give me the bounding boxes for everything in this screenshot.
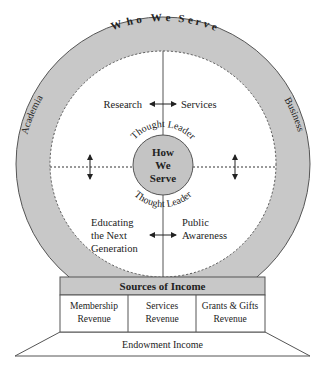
membership-line-1: Membership: [70, 301, 118, 311]
grants-line-1: Grants & Gifts: [202, 301, 259, 311]
center-line-2: We: [155, 159, 170, 171]
research-label: Research: [104, 99, 143, 110]
public-awareness-line-1: Public: [182, 217, 209, 228]
public-awareness-line-2: Awareness: [182, 230, 227, 241]
mission-diagram: Who We Serve Academia Business Thought L…: [0, 0, 325, 369]
center-line-1: How: [152, 146, 174, 158]
services-revenue-line-2: Revenue: [145, 314, 178, 324]
educating-line-1: Educating: [91, 217, 134, 228]
endowment-income-label: Endowment Income: [122, 339, 203, 350]
sources-of-income-header: Sources of Income: [120, 280, 206, 292]
educating-line-3: Generation: [91, 243, 138, 254]
services-label: Services: [181, 99, 217, 110]
center-line-3: Serve: [150, 172, 176, 184]
educating-line-2: the Next: [91, 230, 127, 241]
services-revenue-line-1: Services: [146, 301, 178, 311]
membership-line-2: Revenue: [77, 314, 110, 324]
grants-line-2: Revenue: [213, 314, 246, 324]
